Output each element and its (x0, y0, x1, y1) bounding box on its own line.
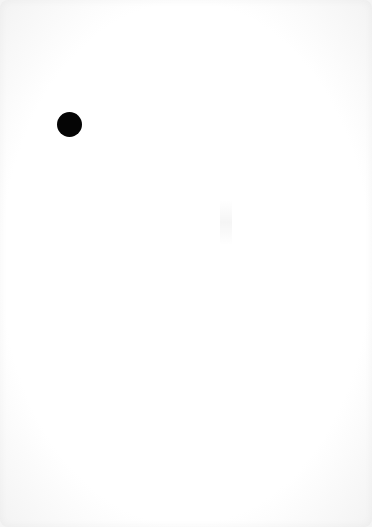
black-dot-mark (57, 112, 82, 137)
bleed-through-mark (220, 200, 232, 245)
blank-page (0, 0, 372, 527)
